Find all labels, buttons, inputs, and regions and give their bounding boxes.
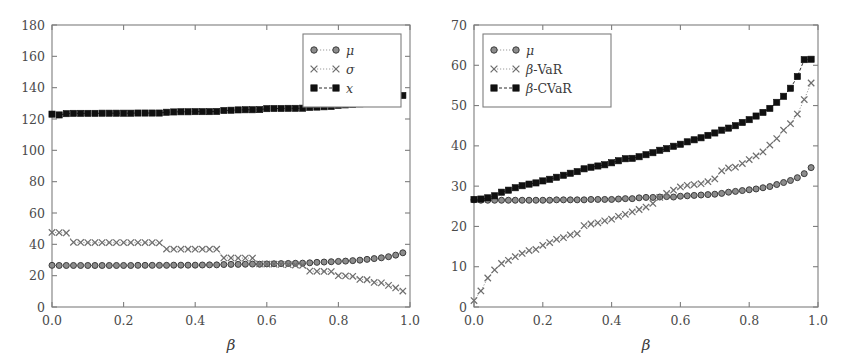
- data-point: [199, 109, 205, 115]
- data-point: [705, 132, 711, 138]
- data-point: [214, 262, 220, 268]
- data-point: [801, 96, 807, 102]
- data-point: [602, 196, 608, 202]
- data-point: [156, 262, 162, 268]
- data-point: [767, 142, 773, 148]
- data-point: [650, 200, 656, 206]
- data-point: [794, 73, 800, 79]
- data-point: [581, 222, 587, 228]
- data-point: [767, 105, 773, 111]
- data-point: [171, 262, 177, 268]
- legend-marker: [513, 47, 519, 53]
- data-point: [257, 107, 263, 113]
- data-point: [264, 106, 270, 112]
- data-point: [106, 110, 112, 116]
- x-tick-label: 0.4: [185, 313, 205, 328]
- data-point: [149, 262, 155, 268]
- legend-marker: [311, 85, 317, 91]
- data-point: [142, 110, 148, 116]
- data-point: [732, 123, 738, 129]
- data-point: [560, 235, 566, 241]
- legend-marker: [333, 85, 339, 91]
- data-point: [63, 262, 69, 268]
- data-point: [774, 99, 780, 105]
- data-point: [135, 239, 141, 245]
- data-point: [705, 179, 711, 185]
- data-point: [567, 197, 573, 203]
- data-point: [636, 154, 642, 160]
- data-point: [746, 117, 752, 123]
- data-point: [498, 189, 504, 195]
- data-point: [56, 112, 62, 118]
- data-point: [56, 262, 62, 268]
- data-point: [92, 262, 98, 268]
- x-axis-label: β: [226, 336, 236, 354]
- x-axis-label: β: [641, 336, 651, 354]
- data-point: [636, 195, 642, 201]
- legend-marker: [311, 47, 317, 53]
- data-point: [242, 261, 248, 267]
- data-point: [242, 255, 248, 261]
- data-point: [739, 119, 745, 125]
- data-point: [629, 155, 635, 161]
- data-point: [99, 262, 105, 268]
- data-point: [540, 178, 546, 184]
- data-point: [588, 196, 594, 202]
- data-point: [357, 257, 363, 263]
- y-tick-label: 20: [451, 219, 467, 234]
- data-point: [178, 109, 184, 115]
- data-point: [774, 135, 780, 141]
- data-point: [249, 255, 255, 261]
- data-point: [85, 262, 91, 268]
- data-point: [684, 193, 690, 199]
- data-point: [364, 256, 370, 262]
- data-point: [228, 261, 234, 267]
- data-point: [185, 109, 191, 115]
- chart-panel-left: 0204060801001201401601800.00.20.40.60.81…: [0, 0, 425, 364]
- plot-left: 0204060801001201401601800.00.20.40.60.81…: [0, 0, 425, 364]
- data-point: [135, 110, 141, 116]
- data-point: [677, 184, 683, 190]
- data-point: [78, 262, 84, 268]
- y-tick-label: 20: [29, 268, 45, 283]
- data-point: [801, 57, 807, 63]
- data-point: [650, 194, 656, 200]
- data-point: [622, 196, 628, 202]
- data-point: [128, 110, 134, 116]
- data-point: [242, 107, 248, 113]
- legend-label-3: x: [346, 81, 353, 96]
- data-point: [364, 277, 370, 283]
- data-point: [657, 147, 663, 153]
- legend-label-2: σ: [346, 62, 355, 77]
- x-tick-label: 0.4: [602, 313, 622, 328]
- legend-marker: [491, 85, 497, 91]
- data-point: [106, 262, 112, 268]
- y-tick-label: 120: [21, 112, 45, 127]
- y-tick-label: 160: [21, 49, 45, 64]
- data-point: [760, 109, 766, 115]
- data-point: [213, 246, 219, 252]
- data-point: [285, 105, 291, 111]
- data-point: [746, 187, 752, 193]
- y-tick-label: 140: [21, 80, 45, 95]
- data-point: [760, 185, 766, 191]
- data-point: [328, 259, 334, 265]
- data-point: [780, 127, 786, 133]
- data-point: [643, 194, 649, 200]
- data-point: [609, 196, 615, 202]
- data-point: [49, 262, 55, 268]
- y-tick-label: 40: [29, 237, 45, 252]
- data-point: [664, 194, 670, 200]
- data-point: [335, 272, 341, 278]
- x-tick-label: 0.6: [257, 313, 277, 328]
- data-point: [393, 252, 399, 258]
- y-tick-label: 30: [451, 179, 467, 194]
- data-point: [498, 260, 504, 266]
- data-point: [350, 273, 356, 279]
- data-point: [753, 186, 759, 192]
- x-tick-label: 0.6: [670, 313, 690, 328]
- data-point: [540, 242, 546, 248]
- data-point: [718, 168, 724, 174]
- data-point: [533, 197, 539, 203]
- data-point: [698, 135, 704, 141]
